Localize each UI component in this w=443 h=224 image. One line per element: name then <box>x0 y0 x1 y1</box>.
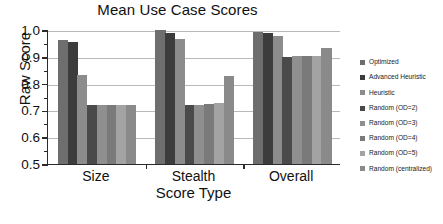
legend-swatch-icon <box>360 75 365 80</box>
bar <box>194 105 204 164</box>
y-axis-tick-label: 0.5 <box>21 158 40 172</box>
bar <box>155 30 165 164</box>
bar <box>126 105 136 164</box>
bar <box>97 105 107 164</box>
bar <box>87 105 97 164</box>
legend-item[interactable]: Optimized <box>360 55 443 70</box>
legend-item[interactable]: Random (OD=2) <box>360 101 443 116</box>
legend-label: Random (OD=3) <box>369 120 418 127</box>
legend-label: Advanced Heuristic <box>369 74 426 81</box>
legend-swatch-icon <box>360 151 365 156</box>
legend-swatch-icon <box>360 60 365 65</box>
bar <box>68 42 78 164</box>
legend-label: Random (centralized) <box>369 166 432 173</box>
legend-swatch-icon <box>360 121 365 126</box>
bar <box>116 105 126 164</box>
bar <box>253 32 263 164</box>
bar-group <box>48 31 146 164</box>
plot-area: 0.50.60.70.80.91.0 <box>47 31 340 165</box>
legend-item[interactable]: Heuristic <box>360 85 443 100</box>
y-axis-tick-label: 0.9 <box>21 51 40 65</box>
legend-swatch-icon <box>360 106 365 111</box>
bar <box>214 103 224 164</box>
x-axis-group-label: Overall <box>242 168 340 184</box>
y-axis-tick-label: 0.8 <box>21 78 40 92</box>
bar <box>204 104 214 164</box>
chart-title: Mean Use Case Scores <box>0 1 355 18</box>
x-axis-title: Score Type <box>47 184 340 201</box>
legend: OptimizedAdvanced HeuristicHeuristicRand… <box>360 55 443 177</box>
bar <box>107 105 117 164</box>
bar <box>292 56 302 164</box>
legend-label: Random (OD=2) <box>369 105 418 112</box>
legend-swatch-icon <box>360 136 365 141</box>
bar <box>175 39 185 164</box>
legend-label: Random (OD=5) <box>369 150 418 157</box>
bar <box>302 56 312 164</box>
bar-group <box>146 31 244 164</box>
legend-swatch-icon <box>360 166 365 171</box>
y-axis-tick-label: 0.7 <box>21 105 40 119</box>
bar <box>58 40 68 164</box>
legend-item[interactable]: Advanced Heuristic <box>360 70 443 85</box>
legend-label: Optimized <box>369 59 399 66</box>
y-axis-tick <box>42 164 48 166</box>
bar <box>321 48 331 164</box>
legend-item[interactable]: Random (OD=3) <box>360 116 443 131</box>
bar <box>185 105 195 164</box>
legend-item[interactable]: Random (OD=4) <box>360 131 443 146</box>
legend-label: Heuristic <box>369 90 395 97</box>
bar <box>77 75 87 164</box>
mean-use-case-scores-chart: Mean Use Case Scores Raw Score 0.50.60.7… <box>0 0 443 224</box>
bar <box>312 56 322 164</box>
x-axis-group-label: Size <box>47 168 145 184</box>
y-axis-tick-label: 0.6 <box>21 131 40 145</box>
bar <box>263 33 273 164</box>
legend-label: Random (OD=4) <box>369 135 418 142</box>
legend-item[interactable]: Random (centralized) <box>360 161 443 176</box>
bar <box>282 57 292 164</box>
y-axis-tick-label: 1.0 <box>21 24 40 38</box>
bar <box>165 33 175 164</box>
bar-group <box>243 31 341 164</box>
legend-swatch-icon <box>360 90 365 95</box>
x-axis-group-label: Stealth <box>145 168 243 184</box>
legend-item[interactable]: Random (OD=5) <box>360 146 443 161</box>
bar <box>224 76 234 164</box>
bar <box>273 36 283 164</box>
